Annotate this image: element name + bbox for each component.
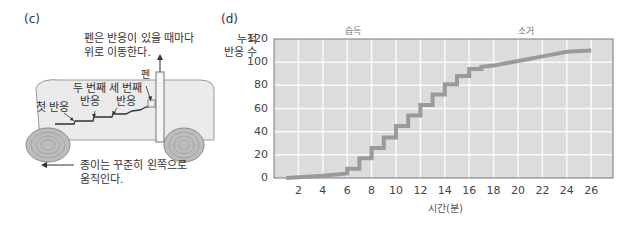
y-tick-label: 0: [240, 171, 268, 184]
x-tick-label: 22: [534, 184, 550, 197]
x-tick-label: 18: [486, 184, 502, 197]
y-tick-label: 20: [240, 148, 268, 161]
x-tick-label: 24: [559, 184, 575, 197]
x-tick-label: 12: [412, 184, 428, 197]
x-tick-label: 10: [388, 184, 404, 197]
x-tick-label: 26: [583, 184, 599, 197]
y-tick-label: 60: [240, 102, 268, 115]
x-tick-label: 20: [510, 184, 526, 197]
y-tick-label: 120: [240, 32, 268, 45]
x-tick-label: 16: [461, 184, 477, 197]
x-tick-label: 14: [437, 184, 453, 197]
x-tick-label: 4: [315, 184, 331, 197]
y-tick-label: 80: [240, 78, 268, 91]
x-tick-label: 6: [339, 184, 355, 197]
y-tick-label: 40: [240, 125, 268, 138]
x-tick-label: 2: [290, 184, 306, 197]
x-tick-label: 8: [364, 184, 380, 197]
y-tick-label: 100: [240, 55, 268, 68]
